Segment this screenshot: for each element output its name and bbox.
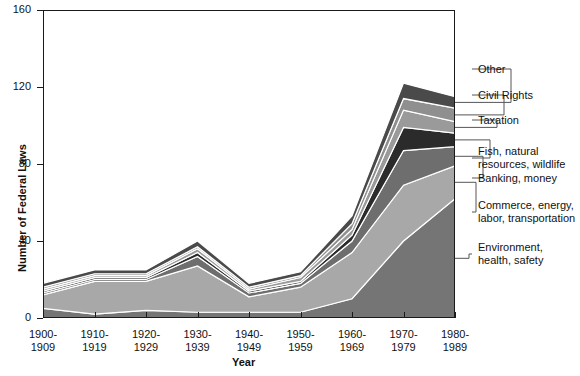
y-tick-label: 80 [0, 158, 31, 169]
x-axis-title: Year [232, 356, 255, 368]
chart-root: Number of Federal Laws 04080120160 1900-… [0, 0, 580, 376]
y-tick-mark [37, 87, 43, 88]
y-tick-label: 160 [0, 4, 31, 15]
y-tick-mark [37, 241, 43, 242]
x-tick-mark [249, 312, 250, 318]
legend-label-fish-natural-resources-wildlife[interactable]: Fish, naturalresources, wildlife [478, 145, 565, 171]
legend-label-commerce-energy-labor-transportation[interactable]: Commerce, energy,labor, transportation [478, 199, 575, 225]
y-tick-label: 40 [0, 235, 31, 246]
legend-label-other[interactable]: Other [478, 63, 506, 76]
x-tick-mark [95, 312, 96, 318]
legend-leader-line [455, 182, 476, 212]
y-tick-label: 120 [0, 81, 31, 92]
stacked-area-series [43, 10, 455, 318]
x-tick-mark [404, 312, 405, 318]
legend-leader-line [455, 254, 472, 258]
x-tick-mark [301, 312, 302, 318]
x-tick-mark [198, 312, 199, 318]
x-tick-mark [455, 312, 456, 318]
plot-area [43, 10, 455, 318]
legend-label-taxation[interactable]: Taxation [478, 114, 519, 127]
x-tick-mark [146, 312, 147, 318]
legend-label-banking-money[interactable]: Banking, money [478, 172, 557, 185]
y-tick-label: 0 [0, 312, 31, 323]
x-tick-label: 1980-1989 [425, 328, 485, 354]
legend-label-environment-health-safety[interactable]: Environment,health, safety [478, 241, 543, 267]
legend-label-civil-rights[interactable]: Civil Rights [478, 89, 533, 102]
y-tick-mark [37, 164, 43, 165]
y-tick-mark [37, 318, 43, 319]
y-tick-mark [37, 10, 43, 11]
x-tick-mark [352, 312, 353, 318]
